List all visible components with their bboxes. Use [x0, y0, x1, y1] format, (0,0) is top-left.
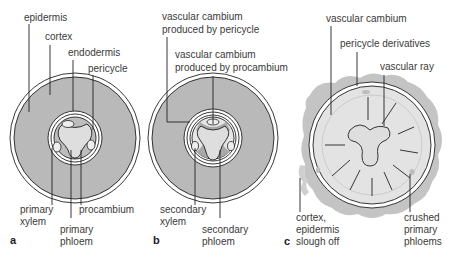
panel-c: vascular cambium pericycle derivatives v… — [284, 13, 442, 247]
label-vc-pericycle-2: produced by pericycle — [162, 24, 260, 35]
panel-letter-b: b — [153, 234, 160, 246]
label-epidermis: epidermis — [24, 12, 67, 23]
label-procambium: procambium — [79, 204, 134, 215]
panel-b: vascular cambium produced by pericycle v… — [148, 11, 288, 247]
panel-letter-c: c — [284, 235, 290, 247]
label-crushed-3: phloems — [404, 236, 442, 247]
label-primary-phloem-2: phloem — [60, 236, 93, 247]
panel-letter-a: a — [10, 234, 17, 246]
primary-phloem-right — [87, 140, 95, 150]
primary-phloem-top — [62, 121, 74, 128]
label-secondary-phloem-1: secondary — [202, 224, 248, 235]
label-crushed-2: primary — [404, 224, 437, 235]
crushed-phloem-left — [316, 167, 320, 173]
panel-a: epidermis cortex endodermis pericycle pr… — [10, 12, 140, 247]
label-secondary-phloem-2: phloem — [202, 236, 235, 247]
label-pericycle: pericycle — [88, 63, 128, 74]
pericycle-derivative-mark — [362, 90, 370, 94]
label-primary-phloem-1: primary — [60, 224, 93, 235]
label-vascular-ray: vascular ray — [380, 61, 434, 72]
label-secondary-xylem-2: xylem — [160, 216, 186, 227]
label-primary-xylem-1: primary — [20, 204, 53, 215]
primary-phloem-left — [53, 142, 61, 152]
label-primary-xylem-2: xylem — [20, 216, 46, 227]
label-vc-procambium-1: vascular cambium — [175, 49, 256, 60]
label-cortex-slough-1: cortex, — [296, 212, 326, 223]
label-secondary-xylem-1: secondary — [160, 204, 206, 215]
label-vc-pericycle-1: vascular cambium — [162, 11, 243, 22]
label-vc-procambium-2: produced by procambium — [175, 62, 288, 73]
label-cortex-slough-2: epidermis — [296, 224, 339, 235]
label-pericycle-derivatives: pericycle derivatives — [340, 38, 430, 49]
label-crushed-1: crushed — [404, 212, 440, 223]
label-vascular-cambium: vascular cambium — [326, 13, 407, 24]
root-diagram: epidermis cortex endodermis pericycle pr… — [0, 0, 456, 258]
label-cortex-slough-3: slough off — [296, 236, 339, 247]
phloem-right — [228, 142, 235, 151]
label-endodermis: endodermis — [68, 47, 120, 58]
label-cortex: cortex — [45, 31, 72, 42]
